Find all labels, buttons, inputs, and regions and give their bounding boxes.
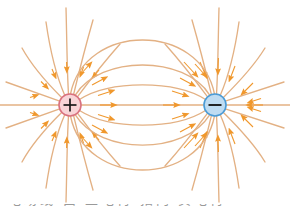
field-arrow xyxy=(30,112,36,114)
field-arrow xyxy=(243,117,253,127)
field-arrow xyxy=(92,78,105,85)
field-line-radial xyxy=(225,82,284,101)
field-arrow xyxy=(41,82,47,88)
field-line-arc xyxy=(76,65,210,95)
negative-charge xyxy=(204,94,226,116)
positive-charge xyxy=(59,94,81,116)
field-arrow xyxy=(180,125,193,132)
field-arrow xyxy=(172,91,186,96)
field-arrow xyxy=(98,91,112,96)
field-line-radial xyxy=(66,8,69,94)
field-arrow xyxy=(52,69,55,76)
field-line-arc xyxy=(80,85,206,100)
field-line-arc xyxy=(76,115,210,145)
field-line-arc xyxy=(71,40,215,94)
field-arrow xyxy=(180,78,193,85)
field-line-radial xyxy=(225,109,284,128)
field-arrow xyxy=(250,99,261,103)
field-line-radial xyxy=(217,116,220,202)
field-line-radial xyxy=(74,20,93,94)
field-line-radial xyxy=(192,116,211,190)
electric-field-diagram: 电场线 由 正电荷 指向 负电荷 xyxy=(0,0,290,210)
field-arrow xyxy=(243,83,253,93)
field-lines-canvas xyxy=(0,0,290,210)
field-line-radial xyxy=(66,116,69,202)
field-arrow xyxy=(92,125,105,132)
caption-strip: 电场线 由 正电荷 指向 负电荷 xyxy=(0,204,290,210)
dipole-connecting-arcs xyxy=(71,40,215,170)
field-line-arc xyxy=(80,111,206,126)
field-line-radial xyxy=(74,116,93,190)
field-arrow xyxy=(98,115,112,120)
field-line-arc xyxy=(71,116,215,170)
field-arrow xyxy=(41,123,47,129)
field-line-radial xyxy=(6,109,60,128)
figure-caption: 电场线 由 正电荷 指向 负电荷 xyxy=(8,204,226,206)
field-line-radial xyxy=(217,8,220,94)
field-arrow xyxy=(172,115,186,120)
field-arrow xyxy=(30,96,36,98)
field-arrow xyxy=(52,134,55,141)
field-line-radial xyxy=(6,82,60,101)
field-arrow xyxy=(250,108,261,112)
field-line-radial xyxy=(192,20,211,94)
field-arrow xyxy=(230,66,235,79)
field-arrow xyxy=(230,131,235,144)
